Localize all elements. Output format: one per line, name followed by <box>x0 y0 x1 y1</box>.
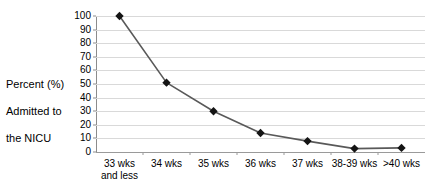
y-axis-label: Percent (%) Admitted to the NICU <box>6 64 80 159</box>
x-tick-mark <box>284 152 285 155</box>
y-tick-label: 30 <box>80 106 91 116</box>
y-tick-label: 70 <box>80 52 91 62</box>
series-line <box>120 16 402 149</box>
y-tick-label: 20 <box>80 120 91 130</box>
y-tick-label: 40 <box>80 93 91 103</box>
y-tick-label: 80 <box>80 38 91 48</box>
data-point-marker <box>209 107 217 115</box>
x-tick-mark <box>378 152 379 155</box>
y-tick-label: 60 <box>80 65 91 75</box>
y-tick-label: 90 <box>80 25 91 35</box>
y-tick-label: 100 <box>74 11 91 21</box>
x-tick-mark <box>190 152 191 155</box>
plot-area: 1009080706050403020100 <box>96 16 425 152</box>
y-axis-label-line-1: Percent (%) <box>6 78 80 92</box>
data-point-marker <box>303 137 311 145</box>
y-tick-label: 10 <box>80 133 91 143</box>
data-series <box>96 16 425 152</box>
series-markers <box>115 12 405 153</box>
data-point-marker <box>256 129 264 137</box>
data-point-marker <box>397 144 405 152</box>
chart-container: Percent (%) Admitted to the NICU 1009080… <box>0 0 437 193</box>
y-tick-label: 0 <box>85 147 91 157</box>
x-tick-mark <box>331 152 332 155</box>
x-tick-mark <box>237 152 238 155</box>
y-tick-label: 50 <box>80 79 91 89</box>
x-tick-mark <box>143 152 144 155</box>
gridline <box>96 152 425 153</box>
data-point-marker <box>350 144 358 152</box>
x-axis-labels: 33 wks and less34 wks35 wks36 wks37 wks3… <box>96 158 425 192</box>
y-axis-label-line-2: Admitted to <box>6 105 80 119</box>
x-tick-label: >40 wks <box>372 158 432 170</box>
y-axis-label-line-3: the NICU <box>6 132 80 146</box>
